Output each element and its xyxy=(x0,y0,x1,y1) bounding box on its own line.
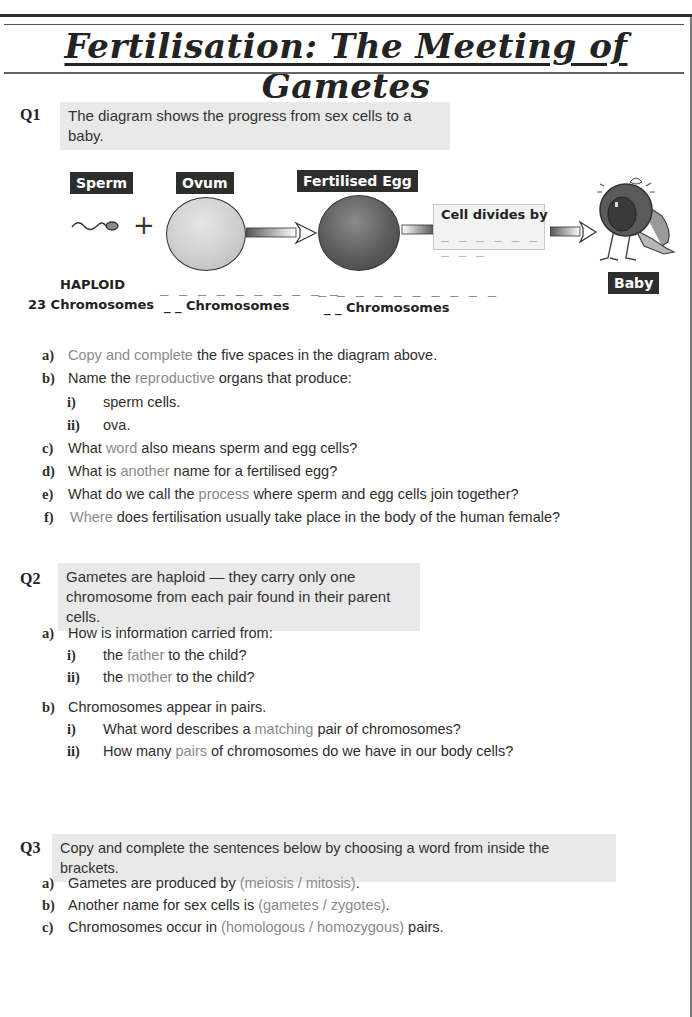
q2-item-a-ii: ii)the mother to the child? xyxy=(67,668,255,686)
sperm-icon xyxy=(70,218,122,234)
q2-item-b-i: i)What word describes a matching pair of… xyxy=(67,720,461,738)
cell-divides-box: Cell divides by _ _ _ _ _ _ _ _ _ xyxy=(433,204,545,250)
title-rule-top xyxy=(4,24,684,25)
ovum-cell-icon xyxy=(166,197,246,271)
fertilised-egg-icon xyxy=(318,195,400,271)
q1-label: Q1 xyxy=(20,106,40,124)
q1-item-b-i: i)sperm cells. xyxy=(67,393,180,411)
q2-item-b: b)Chromosomes appear in pairs. xyxy=(42,698,266,716)
egg-blank-line: _ _ _ _ _ _ _ _ _ _ xyxy=(318,280,497,296)
q1-item-d: d)What is another name for a fertilised … xyxy=(42,462,337,480)
haploid-label: HAPLOID xyxy=(60,277,125,292)
q1-item-a: a)Copy and complete the five spaces in t… xyxy=(42,346,437,364)
right-arrow-icon xyxy=(246,220,318,246)
q1-item-f: f)Where does fertilisation usually take … xyxy=(44,508,560,526)
cell-divides-blank: _ _ _ _ _ _ _ _ _ xyxy=(441,227,544,257)
q1-item-b-ii: ii)ova. xyxy=(67,416,130,434)
q2-item-b-ii: ii)How many pairs of chromosomes do we h… xyxy=(67,742,513,760)
q2-item-a: a)How is information carried from: xyxy=(42,624,273,642)
q2-label: Q2 xyxy=(20,570,40,588)
q3-label: Q3 xyxy=(20,839,40,857)
q1-prompt: The diagram shows the progress from sex … xyxy=(60,102,450,150)
ovum-blank-line: _ _ _ _ _ _ _ _ _ _ xyxy=(160,279,339,295)
fertilised-egg-tag: Fertilised Egg xyxy=(297,170,418,192)
q1-item-e: e)What do we call the process where sper… xyxy=(42,485,519,503)
q2-item-a-i: i)the father to the child? xyxy=(67,646,247,664)
q3-item-a: a)Gametes are produced by (meiosis / mit… xyxy=(42,874,360,892)
right-arrow-icon xyxy=(550,220,598,244)
top-border xyxy=(0,14,692,17)
sperm-chromosome-count: 23 Chromosomes xyxy=(28,297,154,312)
sperm-tag: Sperm xyxy=(70,172,133,194)
q1-item-c: c)What word also means sperm and egg cel… xyxy=(42,439,357,457)
q1-item-b: b)Name the reproductive organs that prod… xyxy=(42,369,352,387)
crying-baby-icon xyxy=(596,172,676,266)
page-title: Fertilisation: The Meeting of Gametes xyxy=(0,26,692,106)
plus-icon: + xyxy=(133,212,155,238)
q3-item-c: c)Chromosomes occur in (homologous / hom… xyxy=(42,918,444,936)
connector-bar-icon xyxy=(401,223,435,237)
title-rule-bottom xyxy=(4,72,684,74)
egg-chromosome-count: _ _ Chromosomes xyxy=(324,300,449,315)
baby-tag: Baby xyxy=(608,272,659,294)
q2-prompt: Gametes are haploid — they carry only on… xyxy=(58,563,420,631)
cell-divides-label: Cell divides by xyxy=(441,207,548,222)
ovum-chromosome-count: _ _ Chromosomes xyxy=(164,298,289,313)
q3-item-b: b)Another name for sex cells is (gametes… xyxy=(42,896,390,914)
ovum-tag: Ovum xyxy=(176,172,234,194)
